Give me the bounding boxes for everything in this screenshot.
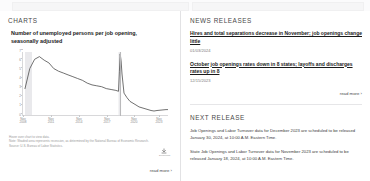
y-axis-tick-2: 2 [10, 95, 21, 98]
y-axis-tick-3: 3 [10, 86, 21, 89]
charts-read-more-link[interactable]: read more › [150, 168, 172, 173]
section-divider [190, 104, 362, 105]
download-label: Download [159, 154, 168, 157]
top-strip-block-left [12, 2, 189, 11]
download-button[interactable]: Download [159, 148, 168, 158]
next-release-paragraph: Job Openings and Labor Turnover data for… [190, 127, 362, 142]
y-axis-tick-6: 6 [10, 59, 21, 62]
news-date: 12/15/2023 [190, 78, 362, 83]
news-headline-link[interactable]: Hires and total separations decrease in … [190, 30, 362, 45]
top-strip-block-right [192, 2, 364, 11]
page-content: CHARTS Number of unemployed persons per … [0, 11, 370, 181]
x-axis-tick-1: Nov2011 [38, 118, 64, 125]
news-headline-link[interactable]: October job openings rates down in 8 sta… [190, 61, 362, 76]
chart-title: Number of unemployed persons per job ope… [11, 30, 151, 46]
y-axis-tick-1: 1 [10, 104, 21, 107]
chart-footnote: Hover over chart to view data. Note: Sha… [9, 135, 159, 149]
chart-svg [23, 52, 168, 116]
charts-panel: CHARTS Number of unemployed persons per … [0, 11, 181, 181]
x-axis-tick-2: Nov2014 [66, 118, 92, 125]
next-release-label: NEXT RELEASE [190, 114, 362, 121]
y-axis-tick-4: 4 [10, 77, 21, 80]
chart-plot-area[interactable] [22, 52, 168, 116]
news-item: October job openings rates down in 8 sta… [190, 61, 362, 84]
chart-container[interactable]: 7 6 5 4 3 2 1 0 Nov2008 Nov2011 [10, 50, 172, 128]
news-read-more-link[interactable]: read more › [190, 91, 362, 96]
news-panel: NEWS RELEASES Hires and total separation… [181, 11, 370, 181]
x-axis-tick-0: Nov2008 [10, 118, 36, 125]
next-release-paragraph: State Job Openings and Labor Turnover da… [190, 148, 362, 163]
news-date: 01/03/2024 [190, 48, 362, 53]
news-section-label: NEWS RELEASES [190, 17, 362, 24]
y-axis-tick-7: 7 [10, 50, 21, 53]
charts-section-label: CHARTS [8, 17, 173, 24]
x-axis-tick-4: Nov2020 [121, 118, 147, 125]
news-item: Hires and total separations decrease in … [190, 30, 362, 53]
chart-hover-line [120, 52, 121, 116]
y-axis-tick-5: 5 [10, 68, 21, 71]
x-axis-tick-3: Nov2017 [94, 118, 120, 125]
download-icon [161, 148, 167, 154]
chart-source: Source: U.S. Bureau of Labor Statistics. [9, 144, 159, 149]
x-axis-tick-5: Nov2023 [146, 118, 172, 125]
